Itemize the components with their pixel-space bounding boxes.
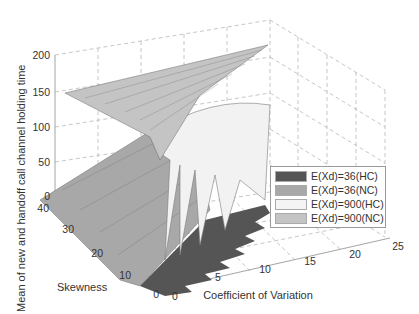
legend-swatch xyxy=(275,185,307,196)
svg-text:5: 5 xyxy=(215,271,221,283)
svg-text:100: 100 xyxy=(32,121,50,133)
y-axis-label: Skewness xyxy=(57,281,108,293)
legend-item: E(Xd)=36(NC) xyxy=(275,184,378,196)
legend: E(Xd)=36(HC) E(Xd)=36(NC) E(Xd)=900(HC) … xyxy=(270,166,386,228)
z-axis-label: Mean of new and handoff call channel hol… xyxy=(15,65,27,312)
svg-text:50: 50 xyxy=(38,156,50,168)
legend-swatch xyxy=(275,213,307,224)
z-tick-labels: 200 150 100 50 0 xyxy=(32,49,50,202)
x-axis-label: Coefficient of Variation xyxy=(203,289,313,301)
svg-text:0: 0 xyxy=(44,190,50,202)
svg-text:20: 20 xyxy=(91,247,103,259)
svg-text:0: 0 xyxy=(172,290,178,302)
svg-text:150: 150 xyxy=(32,86,50,98)
svg-text:15: 15 xyxy=(304,255,316,267)
svg-text:0: 0 xyxy=(153,288,159,300)
svg-text:40: 40 xyxy=(37,202,49,214)
legend-swatch xyxy=(275,199,307,210)
legend-item: E(Xd)=900(NC) xyxy=(275,212,384,224)
svg-text:200: 200 xyxy=(32,49,50,61)
legend-swatch xyxy=(275,171,307,182)
svg-text:20: 20 xyxy=(349,248,361,260)
svg-text:10: 10 xyxy=(119,269,131,281)
svg-text:25: 25 xyxy=(392,240,404,252)
legend-item: E(Xd)=900(HC) xyxy=(275,198,384,210)
surface-chart: 200 150 100 50 0 40 30 20 10 0 0 5 10 15… xyxy=(0,0,419,314)
svg-text:10: 10 xyxy=(259,263,271,275)
svg-text:30: 30 xyxy=(62,223,74,235)
legend-item: E(Xd)=36(HC) xyxy=(275,170,378,182)
